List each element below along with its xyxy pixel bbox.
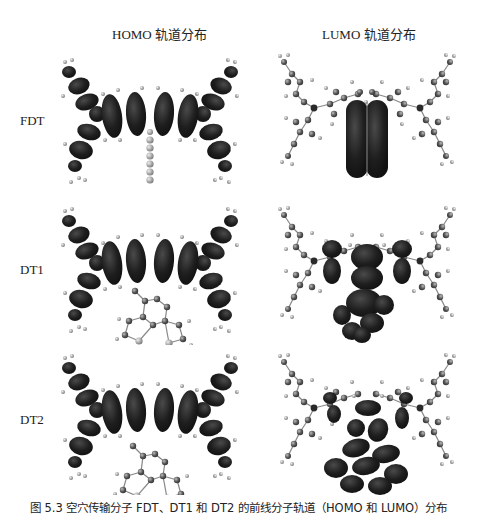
dt1-homo-orbital-image (55, 205, 245, 345)
lumo-column-header: LUMO 轨道分布 (322, 24, 416, 43)
homo-column-header: HOMO 轨道分布 (112, 24, 207, 43)
dt1-lumo-orbital-image (272, 205, 462, 345)
fdt-homo-orbital-image (55, 50, 245, 195)
row-label-dt2: DT2 (20, 412, 44, 428)
fdt-lumo-orbital-image (272, 50, 462, 195)
dt2-homo-orbital-image (55, 350, 245, 495)
dt2-lumo-orbital-image (272, 350, 462, 495)
figure-caption: 图 5.3 空穴传输分子 FDT、DT1 和 DT2 的前线分子轨道（HOMO … (0, 499, 477, 515)
row-label-dt1: DT1 (20, 262, 44, 278)
row-label-fdt: FDT (20, 113, 45, 129)
